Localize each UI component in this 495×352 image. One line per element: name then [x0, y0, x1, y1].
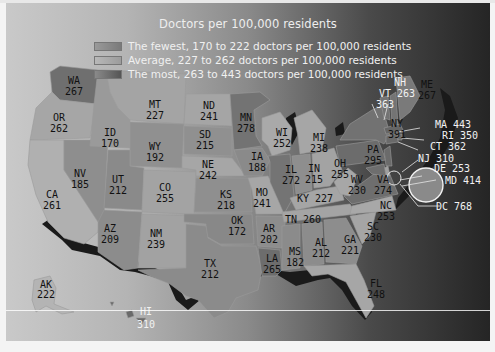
baseline-rule	[6, 310, 490, 311]
legend-label-most: The most, 263 to 443 doctors per 100,000…	[128, 68, 403, 80]
map-title: Doctors per 100,000 residents	[6, 17, 490, 31]
legend-label-fewest: The fewest, 170 to 222 doctors per 100,0…	[128, 40, 411, 52]
legend-row-fewest: The fewest, 170 to 222 doctors per 100,0…	[94, 39, 411, 53]
svg-text:HI: HI	[140, 306, 152, 317]
svg-text:310: 310	[137, 319, 155, 330]
legend-swatch-fewest	[94, 42, 122, 51]
svg-text:ME267: ME267	[418, 79, 436, 101]
svg-text:VT 263: VT 263	[379, 88, 415, 99]
svg-text:KY 227: KY 227	[297, 193, 333, 204]
svg-text:363: 363	[376, 99, 394, 110]
svg-text:SC230: SC230	[364, 221, 382, 243]
svg-text:DE 253: DE 253	[434, 163, 470, 174]
svg-text:RI 350: RI 350	[442, 130, 478, 141]
state-nj[interactable]	[384, 146, 392, 166]
legend-label-average: Average, 227 to 262 doctors per 100,000 …	[128, 54, 397, 66]
map-frame: WA267 OR262 CA261 NV185 ID170 MT227 WY19…	[6, 3, 490, 341]
svg-text:WV230: WV230	[348, 174, 366, 196]
svg-text:MI238: MI238	[310, 132, 328, 154]
legend-row-average: Average, 227 to 262 doctors per 100,000 …	[94, 53, 411, 67]
svg-text:NY391: NY391	[388, 118, 406, 140]
legend-swatch-average	[94, 56, 122, 65]
svg-text:MA 443: MA 443	[435, 119, 471, 130]
svg-text:CT 362: CT 362	[430, 141, 466, 152]
svg-text:FL248: FL248	[367, 278, 385, 300]
svg-text:TN 260: TN 260	[285, 214, 321, 225]
svg-text:MD 414: MD 414	[445, 175, 481, 186]
svg-text:MS182: MS182	[286, 246, 304, 268]
legend-swatch-most	[94, 70, 122, 79]
legend-row-most: The most, 263 to 443 doctors per 100,000…	[94, 67, 411, 81]
legend: The fewest, 170 to 222 doctors per 100,0…	[94, 39, 411, 81]
svg-text:DC 768: DC 768	[436, 201, 472, 212]
